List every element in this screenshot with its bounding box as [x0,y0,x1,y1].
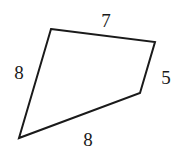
side-length-bottom: 8 [83,130,93,149]
side-length-top: 7 [101,11,111,30]
side-label-right: 5 [161,68,171,87]
side-length-right: 5 [161,68,171,87]
geometry-figure: 7 8 5 8 [0,0,181,152]
side-length-left: 8 [14,63,24,82]
side-label-top: 7 [101,11,111,30]
side-label-left: 8 [14,63,24,82]
side-label-bottom: 8 [83,130,93,149]
